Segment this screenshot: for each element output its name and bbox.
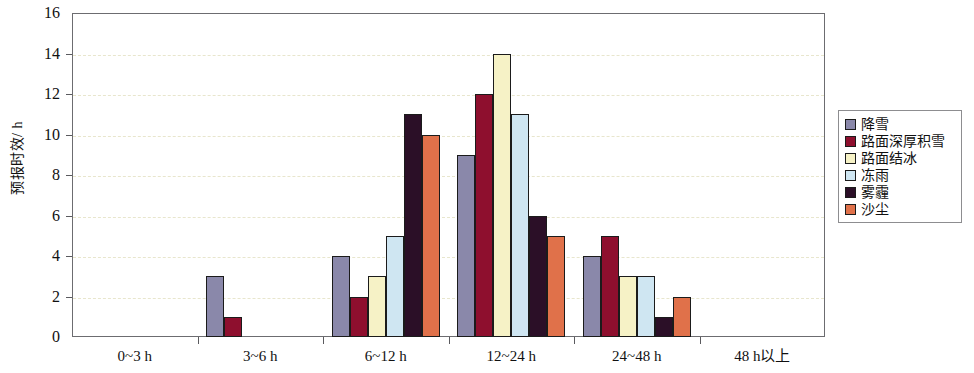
x-axis-tick-label: 6~12 h: [321, 347, 451, 365]
bar: [493, 54, 511, 338]
y-axis-tick-label: 0: [24, 329, 60, 345]
legend-item: 路面结冰: [845, 150, 957, 167]
bar-group: [583, 13, 691, 337]
bar: [637, 276, 655, 337]
legend-swatch-icon: [845, 153, 856, 164]
legend-swatch-icon: [845, 204, 856, 215]
bar-group: [708, 13, 816, 337]
bar-group: [206, 13, 314, 337]
x-axis-tick-label: 12~24 h: [446, 347, 576, 365]
legend-item-label: 雾霾: [861, 185, 889, 200]
bar: [350, 297, 368, 338]
bar-group: [81, 13, 189, 337]
legend-item-label: 路面结冰: [861, 151, 917, 166]
x-axis-tick: [198, 337, 199, 344]
legend-item: 冻雨: [845, 167, 957, 184]
x-axis-tick-label: 0~3 h: [70, 347, 200, 365]
bar-group: [332, 13, 440, 337]
legend-item: 降雪: [845, 116, 957, 133]
legend-item: 沙尘: [845, 201, 957, 218]
x-axis-tick-label: 3~6 h: [195, 347, 325, 365]
x-axis-tick: [700, 337, 701, 344]
bar: [673, 297, 691, 338]
legend-item-label: 路面深厚积雪: [861, 134, 945, 149]
bar: [368, 276, 386, 337]
bars-layer: [72, 13, 825, 337]
legend-item-label: 沙尘: [861, 202, 889, 217]
x-axis-tick: [323, 337, 324, 344]
bar: [655, 317, 673, 337]
bar: [404, 114, 422, 337]
y-axis-tick-label: 12: [24, 86, 60, 102]
legend-item: 雾霾: [845, 184, 957, 201]
x-axis-tick: [449, 337, 450, 344]
y-axis-tick-label: 10: [24, 127, 60, 143]
bar: [206, 276, 224, 337]
y-axis-title: 预报时效/ h: [6, 98, 26, 218]
legend-swatch-icon: [845, 170, 856, 181]
bar-chart-figure: 预报时效/ h 0246810121416 0~3 h3~6 h6~12 h12…: [0, 0, 974, 373]
legend-swatch-icon: [845, 136, 856, 147]
bar: [529, 216, 547, 338]
x-axis-tick: [574, 337, 575, 344]
bar: [422, 135, 440, 338]
y-axis-tick-label: 8: [24, 167, 60, 183]
legend-item-label: 降雪: [861, 117, 889, 132]
bar: [511, 114, 529, 337]
y-axis-tick-label: 2: [24, 289, 60, 305]
bar: [601, 236, 619, 337]
bar-group: [457, 13, 565, 337]
x-axis-tick-label: 24~48 h: [572, 347, 702, 365]
legend-item-label: 冻雨: [861, 168, 889, 183]
bar: [457, 155, 475, 337]
legend-swatch-icon: [845, 119, 856, 130]
bar: [547, 236, 565, 337]
bar: [583, 256, 601, 337]
bar: [224, 317, 242, 337]
x-axis-tick-label: 48 h以上: [697, 347, 827, 365]
y-axis-tick-label: 14: [24, 46, 60, 62]
y-axis-tick-label: 6: [24, 208, 60, 224]
legend-item: 路面深厚积雪: [845, 133, 957, 150]
bar: [332, 256, 350, 337]
y-axis-tick-label: 16: [24, 5, 60, 21]
bar: [386, 236, 404, 337]
legend: 降雪路面深厚积雪路面结冰冻雨雾霾沙尘: [838, 110, 962, 223]
bar: [619, 276, 637, 337]
legend-swatch-icon: [845, 187, 856, 198]
y-axis-tick-label: 4: [24, 248, 60, 264]
bar: [475, 94, 493, 337]
